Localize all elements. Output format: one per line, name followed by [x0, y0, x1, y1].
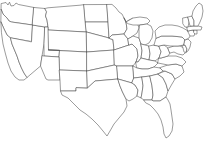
state-wy: Wyoming — [48, 30, 87, 52]
state-ri: Rhode Island — [194, 30, 197, 34]
state-in: Indiana — [141, 44, 150, 60]
state-nd: North Dakota — [84, 5, 108, 23]
state-pa: Pennsylvania — [154, 36, 185, 46]
state-mt: Montana — [45, 5, 87, 32]
us-outline-map: WashingtonOregonCaliforniaNevadaIdahoMon… — [0, 0, 205, 144]
us-map-svg: WashingtonOregonCaliforniaNevadaIdahoMon… — [0, 0, 205, 144]
state-ma: Massachusetts — [187, 26, 202, 31]
